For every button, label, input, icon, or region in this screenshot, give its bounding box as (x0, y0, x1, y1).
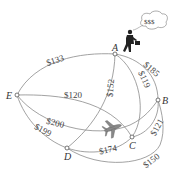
node-label-E: E (5, 90, 12, 101)
edge-label-A-E: $133 (45, 53, 66, 68)
thought-bubble-icon: $$$ (133, 11, 167, 30)
edge-label-A-D: $152 (105, 79, 117, 98)
graph-diagram: $133 $152 $119 $185 $120 $200 $199 $174 … (0, 0, 178, 174)
node-label-D: D (63, 151, 72, 162)
edge-label-D-B: $150 (141, 151, 162, 170)
edge-A-D (67, 54, 115, 148)
node-label-C: C (129, 140, 136, 151)
node-D (65, 146, 69, 150)
graph-canvas: $133 $152 $119 $185 $120 $200 $199 $174 … (0, 0, 178, 174)
node-B (156, 98, 160, 102)
thought-bubble-text: $$$ (144, 18, 155, 26)
edge-label-E-C: $120 (64, 90, 83, 100)
node-E (15, 93, 19, 97)
node-label-B: B (162, 95, 168, 106)
node-C (130, 135, 134, 139)
node-label-A: A (111, 42, 119, 53)
edge-A-E (17, 54, 115, 95)
edge-A-B (115, 54, 158, 100)
edge-label-D-C: $174 (98, 143, 118, 157)
businessman-icon (123, 30, 140, 52)
